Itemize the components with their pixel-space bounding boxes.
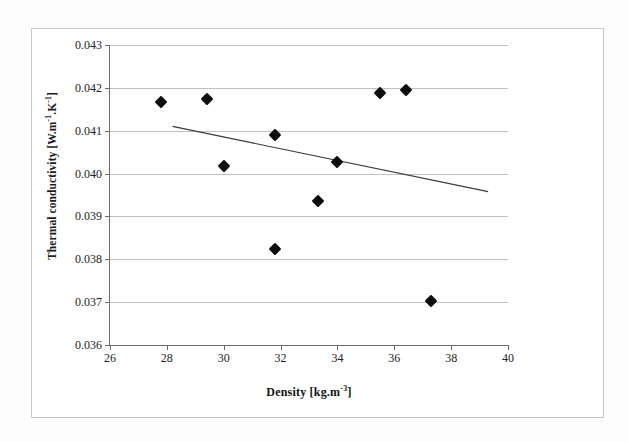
y-axis-label-exponent-1: -1 [44, 115, 53, 122]
y-tick-label: 0.038 [42, 253, 102, 265]
x-axis-label-text-2: ] [347, 385, 351, 399]
x-tick-label: 28 [147, 352, 187, 364]
scatter-chart: Thermal conductivity [W.m-1.K-1] Density… [0, 0, 629, 442]
x-tick-label: 38 [431, 352, 471, 364]
figure-canvas: Thermal conductivity [W.m-1.K-1] Density… [0, 0, 629, 442]
x-tick-label: 36 [374, 352, 414, 364]
y-tick-label: 0.042 [42, 82, 102, 94]
x-tick-label: 30 [204, 352, 244, 364]
x-tick-label: 26 [90, 352, 130, 364]
trendline [173, 126, 489, 191]
y-tick-label: 0.043 [42, 39, 102, 51]
x-tick-label: 34 [317, 352, 357, 364]
x-axis-label: Density [kg.m-3] [110, 385, 508, 400]
x-tick-label: 32 [261, 352, 301, 364]
x-tick-label: 40 [488, 352, 528, 364]
x-tick-mark [508, 345, 509, 350]
trendline-layer [110, 45, 508, 345]
y-axis-label-text-2: .K [46, 103, 58, 115]
y-tick-label: 0.041 [42, 125, 102, 137]
x-axis-label-text: Density [kg.m [266, 385, 340, 399]
y-axis-label-exponent-2: -1 [44, 96, 53, 103]
y-tick-label: 0.036 [42, 339, 102, 351]
y-tick-label: 0.039 [42, 210, 102, 222]
y-tick-label: 0.037 [42, 296, 102, 308]
plot-area: 0.0360.0370.0380.0390.0400.0410.0420.043… [110, 45, 508, 345]
y-axis-label-text: Thermal conductivity [W.m [46, 121, 58, 259]
x-axis-line [110, 345, 508, 346]
y-tick-label: 0.040 [42, 168, 102, 180]
